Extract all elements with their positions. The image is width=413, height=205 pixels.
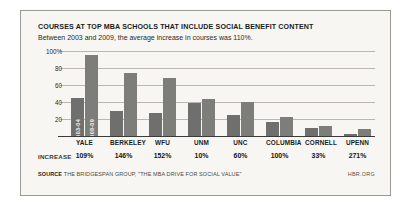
category-label: CORNELL [305, 139, 332, 146]
bar[interactable]: 74 [124, 73, 137, 136]
bar-wrapper: 39 [188, 51, 201, 136]
category-label: YALE [71, 139, 98, 146]
y-tick-label: 40 [55, 99, 62, 106]
increase-value: 152% [149, 152, 176, 159]
series-legend-label: 2003-04 [75, 119, 81, 136]
category-label: WFU [149, 139, 176, 146]
increase-value: 10% [188, 152, 215, 159]
category-label: UNC [227, 139, 254, 146]
x-axis-baseline [58, 136, 375, 137]
plot-area: 20406080100% 452003-04952008-09307427683… [38, 51, 375, 137]
increase-values: 109%146%152%10%60%100%33%271% [65, 152, 375, 159]
chart-subtitle: Between 2003 and 2009, the average incre… [38, 33, 375, 42]
chart-inner: COURSES AT TOP MBA SCHOOLS THAT INCLUDE … [38, 23, 375, 185]
bar-group: 2768 [149, 51, 176, 136]
bar-wrapper: 74 [124, 51, 137, 136]
increase-value: 100% [266, 152, 293, 159]
bar-group: 3943 [188, 51, 215, 136]
bar[interactable]: 68 [163, 78, 176, 136]
bar[interactable]: 30 [110, 111, 123, 137]
bar[interactable]: 40 [241, 102, 254, 136]
y-tick-label: 60 [55, 82, 62, 89]
bar-wrapper: 8 [358, 51, 371, 136]
bar-wrapper: 68 [163, 51, 176, 136]
series-legend-label: 2008-09 [89, 119, 95, 136]
bar-wrapper: 12 [319, 51, 332, 136]
bar[interactable]: 25 [227, 115, 240, 136]
bar-wrapper: 22 [280, 51, 293, 136]
bar[interactable]: 9 [305, 128, 318, 136]
increase-value: 109% [71, 152, 98, 159]
chart-title: COURSES AT TOP MBA SCHOOLS THAT INCLUDE … [38, 23, 375, 32]
bar[interactable]: 16 [266, 122, 279, 136]
bar[interactable]: 8 [358, 129, 371, 136]
increase-value: 271% [344, 152, 371, 159]
brand-label: HBR.ORG [348, 171, 375, 177]
y-tick-label: 20 [55, 116, 62, 123]
source-note: SOURCE THE BRIDGESPAN GROUP, "THE MBA DR… [38, 171, 241, 177]
bar-wrapper: 9 [305, 51, 318, 136]
bar-wrapper: 952008-09 [85, 51, 98, 136]
y-axis: 20406080100% [38, 51, 65, 137]
bar-group: 912 [305, 51, 332, 136]
bar-wrapper: 43 [202, 51, 215, 136]
category-label: UPENN [344, 139, 371, 146]
bar[interactable]: 43 [202, 99, 215, 136]
bar-wrapper: 2 [344, 51, 357, 136]
category-labels: YALEBERKELEYWFUUNMUNCCOLUMBIACORNELLUPEN… [65, 139, 375, 146]
bar[interactable]: 27 [149, 113, 162, 136]
bar-group: 452003-04952008-09 [71, 51, 98, 136]
category-label: BERKELEY [110, 139, 137, 146]
bar-wrapper: 40 [241, 51, 254, 136]
bar-wrapper: 25 [227, 51, 240, 136]
bar[interactable]: 452003-04 [71, 98, 84, 136]
increase-value: 146% [110, 152, 137, 159]
increase-value: 33% [305, 152, 332, 159]
bar[interactable]: 39 [188, 103, 201, 136]
bar[interactable]: 952008-09 [85, 55, 98, 136]
source-prefix: SOURCE [38, 171, 62, 177]
chart-footer: SOURCE THE BRIDGESPAN GROUP, "THE MBA DR… [38, 171, 375, 183]
increase-value: 60% [227, 152, 254, 159]
bar-wrapper: 30 [110, 51, 123, 136]
bar-group: 28 [344, 51, 371, 136]
y-tick-label: 80 [55, 65, 62, 72]
bar-wrapper: 27 [149, 51, 162, 136]
y-tick-label: 100% [46, 48, 62, 55]
bar-groups: 452003-04952008-093074276839432540162291… [65, 51, 375, 136]
bar-group: 3074 [110, 51, 137, 136]
source-text: THE BRIDGESPAN GROUP, "THE MBA DRIVE FOR… [64, 171, 242, 177]
bar[interactable]: 22 [280, 117, 293, 136]
bar-group: 2540 [227, 51, 254, 136]
bar[interactable]: 12 [319, 126, 332, 136]
category-label: COLUMBIA [266, 139, 293, 146]
category-label: UNM [188, 139, 215, 146]
bar-group: 1622 [266, 51, 293, 136]
chart-panel: COURSES AT TOP MBA SCHOOLS THAT INCLUDE … [20, 10, 391, 196]
bar-wrapper: 452003-04 [71, 51, 84, 136]
bar-wrapper: 16 [266, 51, 279, 136]
